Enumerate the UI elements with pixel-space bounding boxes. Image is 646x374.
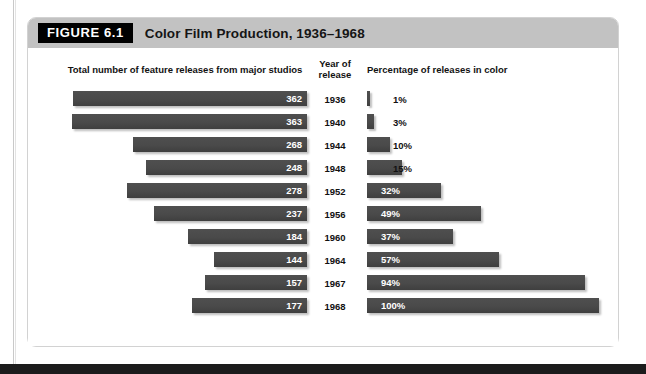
percentage-bar-track: 49%: [367, 203, 599, 226]
releases-bar-track: 177: [48, 295, 307, 318]
releases-bar: 237: [154, 206, 307, 221]
page-margin-rule: [13, 0, 14, 374]
chart-rows: 36219361%36319403%268194410%248194815%27…: [28, 88, 618, 318]
percentage-value-label: 32%: [367, 186, 400, 196]
releases-value-label: 157: [286, 278, 307, 288]
releases-bar: 177: [192, 298, 307, 313]
column-header-year-line2: release: [311, 69, 359, 80]
releases-value-label: 237: [286, 209, 307, 219]
percentage-bar-track: 1%: [367, 88, 599, 111]
chart-row: 36219361%: [28, 88, 618, 111]
releases-bar: 157: [205, 275, 307, 290]
page-footer-bar: [0, 364, 646, 374]
year-label: 1948: [311, 157, 359, 180]
figure-panel: FIGURE 6.1 Color Film Production, 1936–1…: [27, 17, 619, 347]
chart-row: 278195232%: [28, 180, 618, 203]
figure-number-badge: FIGURE 6.1: [38, 23, 133, 43]
column-header-percentage: Percentage of releases in color: [367, 64, 597, 75]
releases-bar-track: 237: [48, 203, 307, 226]
percentage-bar-track: 37%: [367, 226, 599, 249]
percentage-value-label: 15%: [393, 157, 412, 180]
percentage-value-label: 94%: [367, 278, 400, 288]
chart-row: 1771968100%: [28, 295, 618, 318]
releases-value-label: 184: [286, 232, 307, 242]
percentage-value-label: 57%: [367, 255, 400, 265]
releases-bar-track: 268: [48, 134, 307, 157]
year-label: 1956: [311, 203, 359, 226]
releases-bar-track: 144: [48, 249, 307, 272]
releases-bar: 363: [72, 114, 307, 129]
percentage-bar-track: 32%: [367, 180, 599, 203]
percentage-bar: 37%: [367, 229, 453, 244]
year-label: 1964: [311, 249, 359, 272]
page-margin-rule-secondary: [15, 0, 16, 374]
chart-row: 268194410%: [28, 134, 618, 157]
percentage-bar: 100%: [367, 298, 599, 313]
releases-bar: 278: [127, 183, 307, 198]
chart-row: 248194815%: [28, 157, 618, 180]
releases-bar-track: 157: [48, 272, 307, 295]
percentage-value-label: 1%: [393, 88, 407, 111]
percentage-bar: [367, 114, 374, 129]
percentage-bar: 49%: [367, 206, 481, 221]
column-header-year: Year of release: [311, 58, 359, 80]
releases-bar-track: 248: [48, 157, 307, 180]
percentage-value-label: 100%: [367, 301, 405, 311]
percentage-bar: [367, 137, 390, 152]
releases-value-label: 363: [286, 117, 307, 127]
percentage-bar-track: 57%: [367, 249, 599, 272]
percentage-value-label: 37%: [367, 232, 400, 242]
releases-bar: 144: [214, 252, 307, 267]
chart-row: 36319403%: [28, 111, 618, 134]
releases-value-label: 177: [286, 301, 307, 311]
releases-bar: 248: [146, 160, 307, 175]
percentage-bar-track: 10%: [367, 134, 599, 157]
releases-bar-track: 184: [48, 226, 307, 249]
percentage-value-label: 3%: [393, 111, 407, 134]
column-header-releases: Total number of feature releases from ma…: [61, 64, 309, 75]
figure-title: Color Film Production, 1936–1968: [145, 26, 365, 41]
chart-row: 184196037%: [28, 226, 618, 249]
percentage-bar: [367, 91, 370, 106]
page-canvas: FIGURE 6.1 Color Film Production, 1936–1…: [0, 0, 646, 374]
year-label: 1944: [311, 134, 359, 157]
releases-bar-track: 278: [48, 180, 307, 203]
releases-value-label: 268: [286, 140, 307, 150]
paired-bar-chart: Total number of feature releases from ma…: [28, 48, 618, 346]
releases-bar-track: 362: [48, 88, 307, 111]
releases-value-label: 362: [286, 94, 307, 104]
chart-row: 237195649%: [28, 203, 618, 226]
releases-bar: 268: [133, 137, 307, 152]
chart-row: 144196457%: [28, 249, 618, 272]
figure-body: Total number of feature releases from ma…: [28, 48, 618, 346]
releases-bar: 362: [73, 91, 307, 106]
releases-value-label: 144: [286, 255, 307, 265]
year-label: 1952: [311, 180, 359, 203]
percentage-value-label: 49%: [367, 209, 400, 219]
percentage-bar-track: 94%: [367, 272, 599, 295]
percentage-bar-track: 100%: [367, 295, 599, 318]
percentage-value-label: 10%: [393, 134, 412, 157]
figure-header: FIGURE 6.1 Color Film Production, 1936–1…: [28, 18, 618, 48]
chart-row: 157196794%: [28, 272, 618, 295]
releases-bar: 184: [188, 229, 307, 244]
year-label: 1936: [311, 88, 359, 111]
percentage-bar: 57%: [367, 252, 499, 267]
percentage-bar: 94%: [367, 275, 585, 290]
releases-value-label: 248: [286, 163, 307, 173]
releases-value-label: 278: [286, 186, 307, 196]
column-header-year-line1: Year of: [311, 58, 359, 69]
percentage-bar: 32%: [367, 183, 441, 198]
releases-bar-track: 363: [48, 111, 307, 134]
year-label: 1967: [311, 272, 359, 295]
year-label: 1940: [311, 111, 359, 134]
year-label: 1968: [311, 295, 359, 318]
year-label: 1960: [311, 226, 359, 249]
percentage-bar-track: 3%: [367, 111, 599, 134]
percentage-bar-track: 15%: [367, 157, 599, 180]
